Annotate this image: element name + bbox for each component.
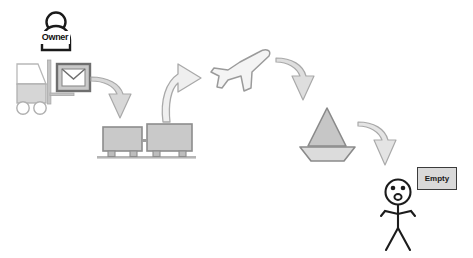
diagram-graphics <box>0 0 473 258</box>
train-cars-icon <box>97 124 196 159</box>
empty-status-label: Empty <box>417 167 457 190</box>
airplane-icon <box>211 50 270 91</box>
arrow-railcars-to-airplane-icon <box>162 64 201 122</box>
diagram-canvas: Owner Empty <box>0 0 473 258</box>
envelope-icon <box>57 64 90 91</box>
arrow-airplane-to-ship-icon <box>276 58 314 100</box>
arrow-forklift-to-railcars-icon <box>91 77 131 118</box>
owner-label: Owner <box>40 31 70 44</box>
arrow-ship-to-recipient-icon <box>358 122 396 165</box>
sailboat-icon <box>300 108 355 161</box>
stick-figure-icon <box>381 180 415 251</box>
